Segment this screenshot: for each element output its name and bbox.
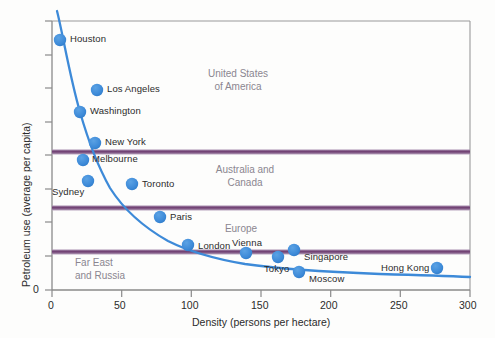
y-axis-ticks [45,21,52,290]
marker-singapore [288,244,300,256]
marker-melbourne [77,154,89,166]
point-label-houston: Houston [70,33,106,44]
region-label-aus-line1: Australia and [190,164,300,177]
marker-paris [154,211,166,223]
chart-container: Houston Los Angeles Washington New York … [0,0,495,338]
point-label-hong-kong: Hong Kong [381,262,429,273]
region-label-australia-canada: Australia and Canada [190,164,300,189]
point-label-tokyo: Tokyo [264,263,289,274]
x-tick-label-100: 100 [181,299,199,311]
marker-toronto [126,178,138,190]
region-label-usa-line1: United States [183,68,293,81]
x-tick-label-0: 0 [48,299,54,311]
marker-hong-kong [431,262,443,274]
region-label-fareast-line2: and Russia [75,270,185,283]
point-label-los-angeles: Los Angeles [107,83,160,94]
point-label-melbourne: Melbourne [92,153,138,164]
marker-houston [54,34,66,46]
x-tick-label-250: 250 [390,299,408,311]
x-axis-ticks [52,290,470,297]
marker-new-york [89,137,101,149]
point-label-sydney: Sydney [52,186,84,197]
region-label-usa-line2: of America [183,81,293,94]
band-line-europe [52,250,470,255]
point-label-singapore: Singapore [304,251,348,262]
region-label-usa: United States of America [183,68,293,93]
x-tick-label-150: 150 [251,299,269,311]
point-label-london: London [198,240,230,251]
region-label-europe: Europe [196,223,286,236]
marker-moscow [293,266,305,278]
band-line-aus [52,206,470,211]
region-label-far-east-russia: Far East and Russia [75,257,185,282]
marker-tokyo [272,251,284,263]
region-label-aus-line2: Canada [190,177,300,190]
point-label-paris: Paris [170,211,192,222]
marker-los-angeles [91,84,103,96]
point-label-toronto: Toronto [142,178,174,189]
region-label-europe-line1: Europe [196,223,286,236]
y-tick-label-0: 0 [33,283,39,295]
marker-london [182,239,194,251]
point-label-moscow: Moscow [309,273,344,284]
point-label-new-york: New York [105,136,146,147]
y-axis-title: Petroleum use (average per capita) [20,122,32,287]
marker-washington [74,106,86,118]
x-tick-label-200: 200 [320,299,338,311]
point-label-washington: Washington [90,105,141,116]
x-tick-label-50: 50 [114,299,126,311]
marker-vienna [240,247,252,259]
region-label-fareast-line1: Far East [75,257,185,270]
x-tick-label-300: 300 [459,299,477,311]
point-label-vienna: Vienna [232,237,262,248]
x-axis-title: Density (persons per hectare) [192,316,330,328]
